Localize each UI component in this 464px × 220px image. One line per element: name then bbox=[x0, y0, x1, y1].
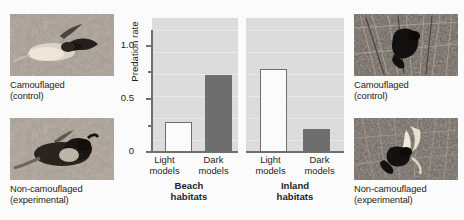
panel-title-beach: Beach habitats bbox=[140, 180, 238, 202]
panel-title-line-2: habitats bbox=[140, 191, 238, 202]
predation-rate-chart: Predation rate 1.0 bbox=[116, 12, 344, 208]
right-photo-block-camouflaged: Camouflaged (control) bbox=[354, 14, 458, 102]
chart-panel-beach: 1.0 0.5 0 Light models Dark models bbox=[140, 12, 238, 208]
y-tick-0 bbox=[146, 151, 152, 153]
right-photo-block-noncamouflaged: Non-camouflaged (experimental) bbox=[354, 118, 458, 206]
x-label-line-1: Dark bbox=[310, 154, 330, 165]
y-tick-0.75 bbox=[148, 71, 152, 73]
y-tick-label-1: 1.0 bbox=[121, 39, 134, 50]
x-label-line-1: Light bbox=[260, 154, 280, 165]
caption-line-2: (experimental) bbox=[10, 194, 114, 205]
x-label-line-1: Light bbox=[154, 154, 174, 165]
left-photo-caption-camouflaged: Camouflaged (control) bbox=[10, 79, 114, 102]
y-tick-label-0: 0 bbox=[129, 145, 134, 156]
y-tick-0.25 bbox=[148, 125, 152, 127]
x-label-dark-models: Dark models bbox=[295, 154, 344, 176]
x-label-line-2: models bbox=[140, 165, 189, 176]
caption-line-2: (experimental) bbox=[354, 194, 458, 205]
x-label-light-models: Light models bbox=[246, 154, 295, 176]
x-label-line-2: models bbox=[246, 165, 295, 176]
gridline bbox=[152, 30, 238, 31]
left-photo-caption-noncamouflaged: Non-camouflaged (experimental) bbox=[10, 183, 114, 206]
gridline bbox=[246, 52, 344, 53]
bar-beach-dark-models bbox=[205, 75, 232, 152]
x-label-dark-models: Dark models bbox=[189, 154, 238, 176]
y-tick-1.0 bbox=[146, 45, 152, 47]
y-tick-label-0.5: 0.5 bbox=[121, 92, 134, 103]
x-axis-labels-beach: Light models Dark models bbox=[140, 154, 238, 176]
bar-inland-light-models bbox=[260, 69, 287, 152]
bar-beach-light-models bbox=[165, 122, 192, 152]
gridline bbox=[246, 30, 344, 31]
x-label-line-2: models bbox=[295, 165, 344, 176]
left-photo-column: Camouflaged (control) bbox=[0, 0, 120, 220]
left-photo-block-noncamouflaged: Non-camouflaged (experimental) bbox=[10, 118, 114, 206]
caption-line-1: Camouflaged bbox=[354, 79, 409, 90]
caption-line-1: Camouflaged bbox=[10, 79, 65, 90]
panel-title-line-1: Inland bbox=[281, 180, 309, 191]
panel-title-line-1: Beach bbox=[175, 180, 204, 191]
bar-inland-dark-models bbox=[303, 129, 330, 152]
caption-line-1: Non-camouflaged bbox=[354, 183, 427, 194]
right-photo-caption-camouflaged: Camouflaged (control) bbox=[354, 79, 458, 102]
y-axis-label: Predation rate bbox=[129, 6, 140, 98]
x-label-line-1: Dark bbox=[204, 154, 224, 165]
panel-title-line-2: habitats bbox=[246, 191, 344, 202]
dark-mouse-on-sand-photo bbox=[10, 118, 114, 180]
left-photo-block-camouflaged: Camouflaged (control) bbox=[10, 14, 114, 102]
x-axis-labels-inland: Light models Dark models bbox=[246, 154, 344, 176]
light-mouse-on-soil-photo bbox=[354, 118, 458, 180]
gridline bbox=[152, 52, 238, 53]
y-axis-line-beach bbox=[151, 30, 153, 152]
right-photo-column: Camouflaged (control) bbox=[344, 0, 464, 220]
caption-line-2: (control) bbox=[354, 90, 458, 101]
y-tick-0.5 bbox=[146, 98, 152, 100]
predation-rate-figure: Camouflaged (control) bbox=[0, 0, 464, 220]
caption-line-1: Non-camouflaged bbox=[10, 183, 83, 194]
panel-title-inland: Inland habitats bbox=[246, 180, 344, 202]
right-photo-caption-noncamouflaged: Non-camouflaged (experimental) bbox=[354, 183, 458, 206]
caption-line-2: (control) bbox=[10, 90, 114, 101]
x-label-line-2: models bbox=[189, 165, 238, 176]
dark-mouse-on-soil-photo bbox=[354, 14, 458, 76]
light-mouse-on-sand-photo bbox=[10, 14, 114, 76]
chart-panel-inland: Light models Dark models Inland habitats bbox=[246, 12, 344, 208]
x-label-light-models: Light models bbox=[140, 154, 189, 176]
chart-panels: 1.0 0.5 0 Light models Dark models bbox=[140, 12, 344, 208]
